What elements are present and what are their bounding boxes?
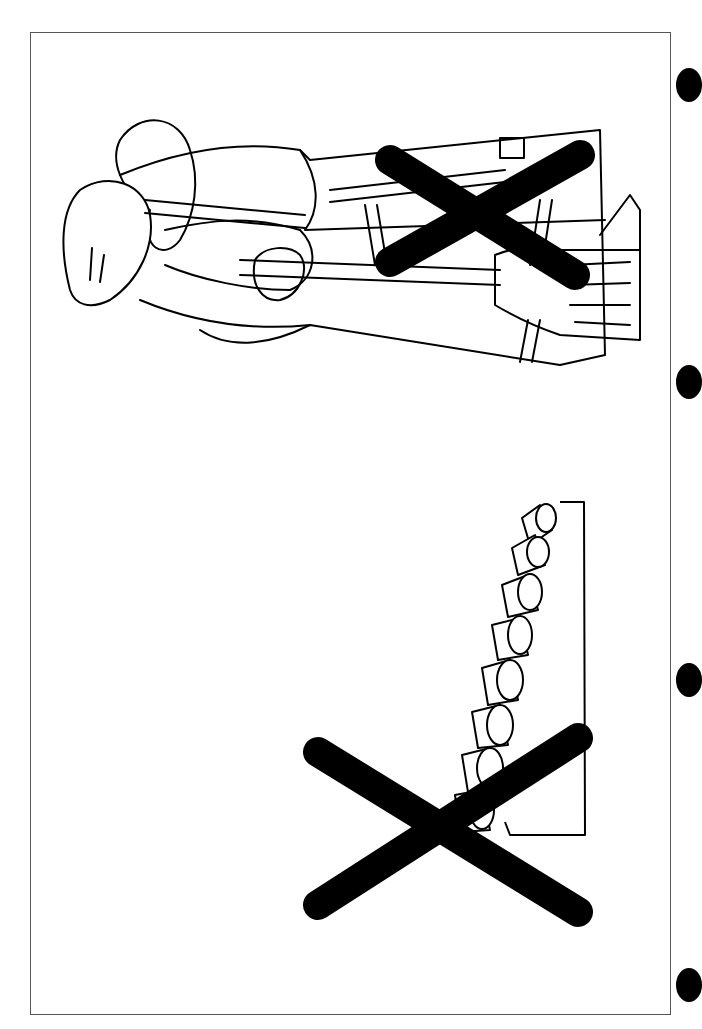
- log-5: [482, 660, 523, 705]
- log-2: [512, 535, 549, 575]
- cross-out-mark-2: [318, 738, 578, 912]
- log-6: [472, 705, 513, 748]
- log-3: [502, 574, 542, 617]
- log-4: [492, 616, 532, 660]
